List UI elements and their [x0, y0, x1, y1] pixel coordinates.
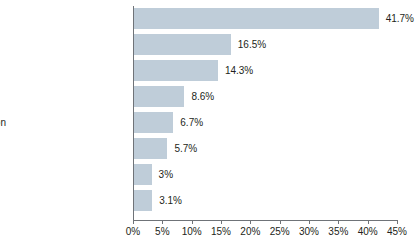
bar-value-label: 8.6%: [184, 86, 214, 107]
x-axis-tick-label: 45%: [387, 226, 407, 238]
bar: [134, 190, 152, 211]
x-axis-tick-label: 15%: [211, 226, 231, 238]
bar-value-label: 14.3%: [218, 60, 253, 81]
x-axis-tick-label: 35%: [328, 226, 348, 238]
x-axis-tick-label: 5%: [155, 226, 169, 238]
bar: [134, 164, 152, 185]
bar-value-label: 5.7%: [167, 138, 197, 159]
x-axis-line: [133, 220, 398, 221]
x-axis-tick: [309, 220, 310, 224]
bar: [134, 8, 379, 29]
bar-value-label: 16.5%: [231, 34, 266, 55]
bar-value-label: 41.7%: [379, 8, 414, 29]
x-axis-tick: [133, 220, 134, 224]
bar: [134, 138, 167, 159]
bar-value-label: 6.7%: [173, 112, 203, 133]
x-axis-tick: [250, 220, 251, 224]
plot-area: 0%5%10%15%20%25%30%35%40%45% Housing41.7…: [0, 0, 415, 245]
x-axis-tick: [368, 220, 369, 224]
x-axis-tick: [221, 220, 222, 224]
x-axis-tick-label: 25%: [270, 226, 290, 238]
bar: [134, 34, 231, 55]
x-axis-tick: [397, 220, 398, 224]
bar: [134, 112, 173, 133]
bar-value-label: 3.1%: [152, 190, 182, 211]
bar: [134, 60, 218, 81]
x-axis-tick-label: 40%: [358, 226, 378, 238]
x-axis-tick-label: 30%: [299, 226, 319, 238]
x-axis-tick: [162, 220, 163, 224]
bar: [134, 86, 184, 107]
x-axis-tick-label: 20%: [240, 226, 260, 238]
bar-chart: 0%5%10%15%20%25%30%35%40%45% Housing41.7…: [0, 0, 415, 245]
x-axis-tick-label: 10%: [182, 226, 202, 238]
x-axis-tick: [280, 220, 281, 224]
bar-value-label: 3%: [152, 164, 173, 185]
x-axis-tick: [192, 220, 193, 224]
x-axis-tick: [338, 220, 339, 224]
x-axis-tick-label: 0%: [126, 226, 140, 238]
